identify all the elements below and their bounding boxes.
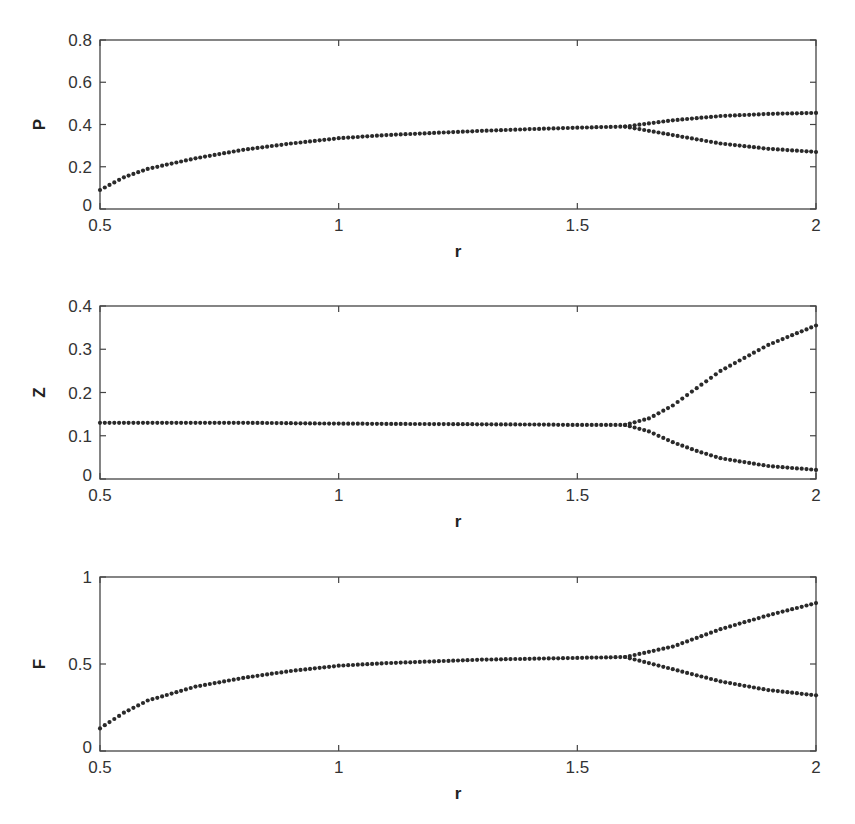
panel-z-vs-r: 0.511.5200.10.20.30.4rZ	[0, 275, 855, 550]
x-axis-label: r	[455, 784, 462, 803]
x-tick-label: 0.5	[88, 758, 112, 777]
plot-frame	[100, 40, 816, 209]
y-axis-label: P	[30, 119, 49, 130]
x-tick-label: 1	[334, 758, 343, 777]
y-tick-label: 0.3	[68, 340, 92, 359]
panel-p-vs-r: 0.511.5200.20.40.60.8rP	[0, 0, 855, 275]
x-tick-label: 2	[811, 486, 820, 505]
x-tick-label: 1.5	[566, 216, 590, 235]
y-tick-label: 0.4	[68, 297, 92, 316]
x-tick-label: 1.5	[566, 486, 590, 505]
data-series-upper-branch	[98, 111, 818, 192]
y-tick-label: 0.1	[68, 427, 92, 446]
panel-f-vs-r: 0.511.5200.51rF	[0, 550, 855, 824]
plot-frame	[100, 306, 816, 479]
data-series-lower-branch	[623, 655, 818, 698]
x-tick-label: 1	[334, 216, 343, 235]
plot-f: 0.511.5200.51rF	[0, 550, 855, 824]
y-tick-label: 0.2	[68, 158, 92, 177]
data-series-upper-branch	[98, 601, 818, 731]
x-tick-label: 2	[811, 216, 820, 235]
y-tick-label: 0.2	[68, 384, 92, 403]
y-tick-label: 0.6	[68, 73, 92, 92]
x-tick-label: 1.5	[566, 758, 590, 777]
data-series-lower-branch	[623, 125, 818, 155]
y-tick-label: 0.8	[68, 31, 92, 50]
y-tick-label: 1	[83, 568, 92, 587]
y-axis-label: F	[30, 659, 49, 669]
x-axis-label: r	[455, 512, 462, 531]
x-tick-label: 1	[334, 486, 343, 505]
data-series-upper-branch	[98, 323, 818, 427]
data-series-lower-branch	[623, 423, 818, 472]
plot-z: 0.511.5200.10.20.30.4rZ	[0, 275, 855, 550]
x-tick-label: 0.5	[88, 486, 112, 505]
plot-p: 0.511.5200.20.40.60.8rP	[0, 0, 855, 275]
y-tick-label: 0.4	[68, 116, 92, 135]
y-tick-label: 0	[83, 738, 92, 757]
y-tick-label: 0	[83, 196, 92, 215]
x-axis-label: r	[455, 242, 462, 261]
y-tick-label: 0.5	[68, 655, 92, 674]
y-axis-label: Z	[30, 387, 49, 397]
x-tick-label: 2	[811, 758, 820, 777]
y-tick-label: 0	[83, 466, 92, 485]
x-tick-label: 0.5	[88, 216, 112, 235]
plot-frame	[100, 577, 816, 751]
